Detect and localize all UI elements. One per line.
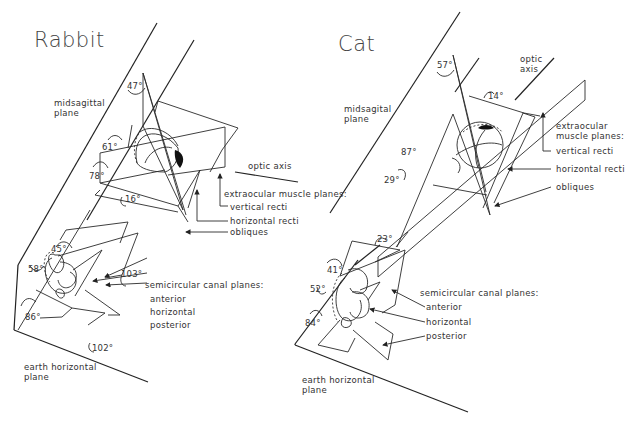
cat-extraocular-obliques: obliques (556, 182, 594, 192)
rabbit-midsagittal-label: midsagittal plane (54, 98, 105, 118)
rabbit-title: Rabbit (34, 28, 105, 52)
rabbit-angle-78: 78° (89, 171, 105, 181)
rabbit-extraocular-obliques: obliques (230, 227, 268, 237)
cat-angle-87: 87° (401, 147, 417, 157)
cat-extraocular-horizontal-recti: horizontal recti (556, 164, 625, 174)
rabbit-extraocular-heading: extraocular muscle planes: (224, 189, 347, 199)
rabbit-angle-47: 47° (127, 81, 143, 91)
cat-angle-23: 23° (377, 234, 393, 244)
rabbit-canal-horizontal: horizontal (150, 307, 195, 317)
rabbit-extraocular-horizontal-recti: horizontal recti (230, 216, 299, 226)
cat-canal-heading: semicircular canal planes: (420, 288, 539, 298)
rabbit-angle-58: 58° (28, 264, 44, 274)
rabbit-extraocular-vertical-recti: vertical recti (230, 202, 288, 212)
cat-canal-posterior: posterior (426, 331, 467, 341)
cat-earth-label: earth horizontal plane (302, 375, 375, 395)
cat-extraocular-heading: extraocular muscle planes: (556, 121, 624, 141)
cat-canal-leaders (370, 290, 425, 345)
rabbit-canal-heading: semicircular canal planes: (145, 280, 264, 290)
figure-canvas: Rabbit midsagittal plane optic axis extr… (0, 0, 630, 421)
rabbit-angle-103: 103° (121, 269, 142, 279)
cat-angle-14: 14° (488, 91, 504, 101)
rabbit-optic-axis-label: optic axis (248, 161, 292, 171)
rabbit-optic-axis (235, 172, 298, 182)
rabbit-angle-61: 61° (102, 142, 118, 152)
cat-optic-axis-label: optic axis (520, 54, 542, 74)
cat-extraocular-planes (378, 55, 585, 277)
cat-angle-84: 84° (305, 318, 321, 328)
rabbit-angle-86: 86° (25, 312, 41, 322)
cat-canal-planes (318, 241, 405, 360)
rabbit-earth-label: earth horizontal plane (24, 362, 97, 382)
cat-title: Cat (338, 32, 375, 56)
cat-angle-52: 52° (310, 284, 326, 294)
rabbit-angle-102: 102° (92, 343, 113, 353)
rabbit-angle-45: 45° (51, 244, 67, 254)
rabbit-canal-posterior: posterior (150, 320, 191, 330)
cat-canal-anterior: anterior (426, 302, 462, 312)
rabbit-canal-anterior: anterior (150, 294, 186, 304)
cat-angle-41: 41° (327, 265, 343, 275)
cat-midsagittal-label: midsagital plane (344, 104, 391, 124)
cat-extraocular-vertical-recti: vertical recti (556, 146, 614, 156)
cat-canal-horizontal: horizontal (426, 317, 471, 327)
rabbit-angle-16: 16° (125, 194, 141, 204)
cat-angle-57: 57° (437, 60, 453, 70)
cat-angle-29: 29° (384, 175, 400, 185)
